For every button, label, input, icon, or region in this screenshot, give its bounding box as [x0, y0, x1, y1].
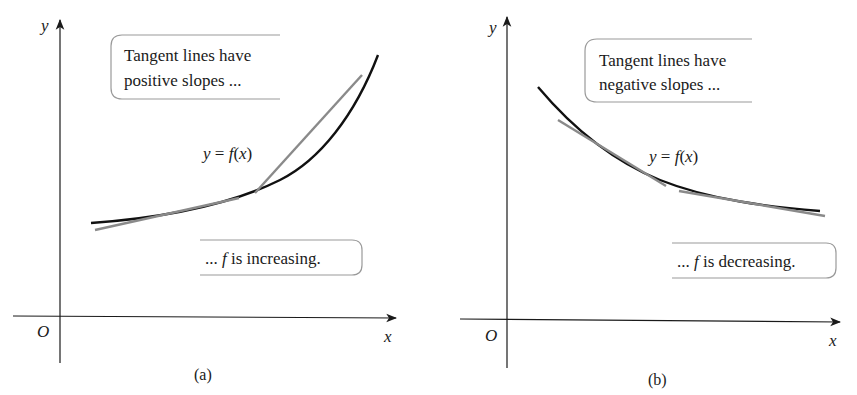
function-label-close: )	[693, 147, 699, 166]
callout-top-line1: Tangent lines have	[599, 51, 726, 70]
panel-a: y x O Tangent lines have positive slopes…	[13, 16, 396, 384]
callout-bottom-prefix: ...	[205, 249, 222, 268]
callout-bottom-text: ... f is decreasing.	[677, 252, 796, 271]
callout-bottom-text: ... f is increasing.	[205, 249, 321, 268]
origin-label: O	[485, 326, 497, 345]
function-label-y: y	[647, 147, 657, 166]
function-label-eq: =	[657, 147, 675, 166]
origin-label: O	[37, 322, 49, 341]
callout-top-line2: negative slopes ...	[599, 75, 720, 94]
function-label-y: y	[201, 144, 211, 163]
callout-bottom-suffix: is decreasing.	[699, 252, 796, 271]
x-axis-label: x	[383, 327, 392, 346]
panel-caption: (b)	[648, 371, 667, 389]
function-label: y = f(x)	[201, 144, 252, 163]
callout-bottom-suffix: is increasing.	[227, 249, 321, 268]
function-label-close: )	[247, 144, 253, 163]
tangent-line	[679, 191, 825, 216]
x-axis	[13, 316, 396, 318]
function-label-eq: =	[211, 144, 229, 163]
x-axis-label: x	[828, 331, 837, 350]
callout-top-line1: Tangent lines have	[124, 46, 251, 65]
diagram-canvas: y x O Tangent lines have positive slopes…	[0, 0, 857, 395]
tangent-line	[95, 198, 239, 230]
panel-b: y x O Tangent lines have negative slopes…	[460, 17, 840, 389]
y-axis-label: y	[487, 18, 497, 37]
x-axis	[460, 319, 840, 322]
callout-top-line2: positive slopes ...	[124, 71, 242, 90]
panel-caption: (a)	[194, 366, 212, 384]
y-axis-label: y	[39, 16, 49, 35]
function-label: y = f(x)	[647, 147, 698, 166]
callout-bottom-prefix: ...	[677, 252, 694, 271]
